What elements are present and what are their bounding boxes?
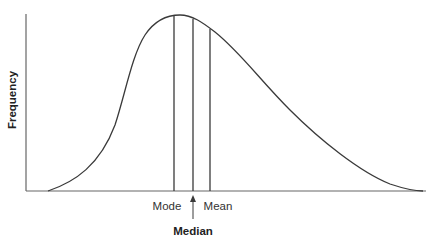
median-arrow-icon xyxy=(190,195,196,202)
distribution-curve xyxy=(48,15,423,191)
mean-label: Mean xyxy=(204,200,233,212)
median-label: Median xyxy=(173,225,213,237)
y-axis-label: Frequency xyxy=(6,70,18,129)
mode-label: Mode xyxy=(153,200,182,212)
skewed-distribution-diagram: Mode Mean Median Frequency xyxy=(0,0,434,246)
